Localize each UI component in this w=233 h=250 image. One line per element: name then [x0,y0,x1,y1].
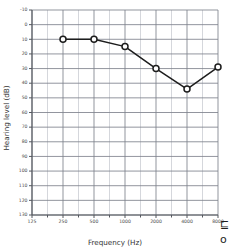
y-tick-label: 120 [19,198,28,203]
x-tick-label: 250 [59,219,68,224]
y-tick-label: 80 [22,139,28,144]
data-point-marker [60,36,66,42]
x-axis-title: Frequency (Hz) [88,238,142,247]
x-tick-label: 4000 [181,219,193,224]
y-tick-label: 0 [25,22,28,27]
x-tick-label: 500 [90,219,99,224]
data-point-marker [215,64,221,70]
data-point-marker [91,36,97,42]
y-axis-title: Hearing level (dB) [2,85,11,150]
y-tick-label: 10 [22,37,28,42]
y-tick-label: 130 [19,212,28,217]
y-tick-label: 40 [22,80,28,85]
x-tick-label: 1000 [119,219,131,224]
data-point-marker [184,86,190,92]
y-tick-label: 50 [22,95,28,100]
x-tick-label: 125 [28,219,37,224]
legend-glyph-bottom: o [220,233,227,246]
x-axis-tick-labels: 1252505001000200040008000 [28,219,224,224]
y-tick-label: 30 [22,66,28,71]
audiogram-svg: -100102030405060708090100110120130 12525… [0,0,233,250]
legend-glyph-top: ⊑ [220,218,229,231]
y-tick-label: 20 [22,51,28,56]
y-tick-label: 70 [22,124,28,129]
y-tick-label: -10 [20,7,28,12]
data-point-marker [153,66,159,72]
y-axis-tick-labels: -100102030405060708090100110120130 [19,7,28,217]
y-tick-label: 100 [19,168,28,173]
tick-marks [29,10,218,218]
x-tick-label: 2000 [150,219,162,224]
y-tick-label: 90 [22,154,28,159]
y-tick-label: 60 [22,110,28,115]
audiogram-chart: -100102030405060708090100110120130 12525… [0,0,233,250]
data-point-marker [122,44,128,50]
y-tick-label: 110 [19,183,28,188]
